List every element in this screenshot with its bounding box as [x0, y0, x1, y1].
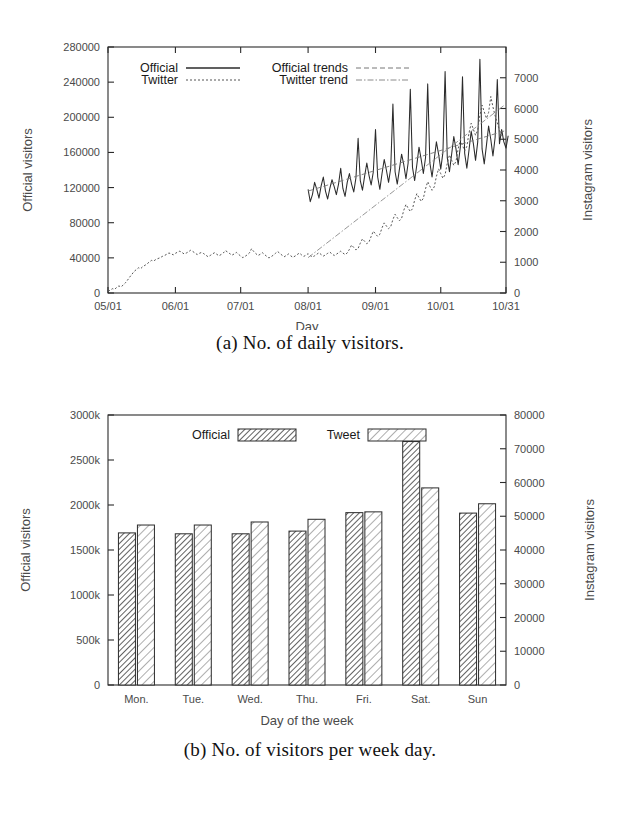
bar-tweet-wed	[251, 522, 268, 685]
chart-a-y2label: Instagram visitors	[580, 119, 595, 221]
chart-b-plot-area: 0500k1000k1500k2000k2500k3000k0100002000…	[0, 385, 620, 735]
figure-b-caption: (b) No. of visitors per week day.	[0, 739, 620, 761]
chart-a-y2tick-label: 5000	[514, 133, 538, 145]
chart-b-y2tick-label: 0	[514, 679, 520, 691]
chart-b-y2tick-label: 30000	[514, 578, 545, 590]
chart-a-ytick-label: 40000	[69, 252, 100, 264]
figure-a-daily-visitors: 0400008000012000016000020000024000028000…	[0, 0, 620, 385]
chart-b-legend-swatch	[368, 429, 426, 441]
chart-b-ylabel: Official visitors	[18, 508, 33, 592]
bar-tweet-fri	[365, 512, 382, 685]
chart-b-ytick-label: 1000k	[70, 589, 100, 601]
chart-a-xtick-label: 06/01	[162, 300, 190, 312]
chart-b-ytick-label: 2500k	[70, 454, 100, 466]
chart-a-xtick-label: 09/01	[362, 300, 390, 312]
chart-a-ytick-label: 280000	[63, 41, 100, 53]
chart-b-xtick-label: Sat.	[411, 693, 431, 705]
bar-tweet-tue	[194, 525, 211, 685]
chart-a-ytick-label: 80000	[69, 217, 100, 229]
chart-b-y2tick-label: 40000	[514, 544, 545, 556]
chart-a-y2tick-label: 1000	[514, 256, 538, 268]
chart-a-y2tick-label: 2000	[514, 226, 538, 238]
bar-official-thu	[289, 531, 306, 685]
chart-b-y2tick-label: 50000	[514, 510, 545, 522]
chart-a-ytick-label: 240000	[63, 76, 100, 88]
chart-b-xtick-label: Thu.	[296, 693, 318, 705]
chart-a-xtick-label: 07/01	[227, 300, 255, 312]
chart-a-xtick-label: 10/01	[427, 300, 455, 312]
chart-b-ytick-label: 2000k	[70, 499, 100, 511]
chart-b-legend-label: Tweet	[327, 428, 361, 442]
bar-tweet-thu	[308, 519, 325, 685]
chart-b-y2tick-label: 70000	[514, 443, 545, 455]
chart-a-ytick-label: 200000	[63, 111, 100, 123]
chart-a-plot-area: 0400008000012000016000020000024000028000…	[0, 0, 620, 330]
chart-b-xtick-label: Tue.	[182, 693, 204, 705]
chart-b-xtick-label: Fri.	[356, 693, 372, 705]
chart-b-legend-label: Official	[192, 428, 230, 442]
chart-a-xtick-label: 08/01	[294, 300, 322, 312]
chart-b-xtick-label: Sun	[468, 693, 488, 705]
figure-b-weekday-visitors: 0500k1000k1500k2000k2500k3000k0100002000…	[0, 385, 620, 821]
bar-tweet-sun	[479, 504, 496, 685]
chart-a-y2tick-label: 0	[514, 287, 520, 299]
chart-b-frame	[108, 415, 506, 685]
chart-b-svg: 0500k1000k1500k2000k2500k3000k0100002000…	[0, 385, 620, 735]
chart-a-xtick-label: 05/01	[94, 300, 122, 312]
chart-a-y2tick-label: 4000	[514, 164, 538, 176]
bar-official-sat	[403, 442, 420, 685]
bar-official-wed	[232, 534, 249, 685]
chart-b-y2tick-label: 20000	[514, 612, 545, 624]
chart-a-svg: 0400008000012000016000020000024000028000…	[0, 0, 620, 330]
chart-b-y2tick-label: 60000	[514, 477, 545, 489]
chart-a-legend-label: Twitter trend	[279, 73, 348, 87]
chart-a-ytick-label: 0	[94, 287, 100, 299]
bar-official-tue	[175, 534, 192, 685]
chart-b-legend-swatch	[238, 429, 296, 441]
bar-official-sun	[460, 513, 477, 685]
chart-a-xlabel: Day	[295, 319, 319, 330]
chart-b-y2label: Instagram visitors	[582, 499, 597, 601]
chart-a-y2tick-label: 7000	[514, 72, 538, 84]
chart-b-y2tick-label: 80000	[514, 409, 545, 421]
chart-a-legend-label: Twitter	[141, 73, 178, 87]
chart-b-ytick-label: 500k	[76, 634, 100, 646]
chart-a-ylabel: Official visitors	[20, 128, 35, 212]
bar-tweet-sat	[422, 488, 439, 685]
bar-official-mon	[118, 533, 135, 685]
bar-official-fri	[346, 513, 363, 685]
chart-b-ytick-label: 3000k	[70, 409, 100, 421]
chart-a-ytick-label: 120000	[63, 182, 100, 194]
chart-a-y2tick-label: 3000	[514, 195, 538, 207]
chart-b-y2tick-label: 10000	[514, 645, 545, 657]
bar-tweet-mon	[137, 525, 154, 685]
chart-a-y2tick-label: 6000	[514, 103, 538, 115]
chart-b-ytick-label: 0	[94, 679, 100, 691]
chart-a-ytick-label: 160000	[63, 146, 100, 158]
chart-b-xtick-label: Mon.	[124, 693, 148, 705]
chart-b-ytick-label: 1500k	[70, 544, 100, 556]
chart-b-xtick-label: Wed.	[237, 693, 262, 705]
chart-a-xtick-label: 10/31	[492, 300, 520, 312]
chart-b-xlabel: Day of the week	[260, 713, 354, 728]
figure-a-caption: (a) No. of daily visitors.	[0, 332, 620, 354]
